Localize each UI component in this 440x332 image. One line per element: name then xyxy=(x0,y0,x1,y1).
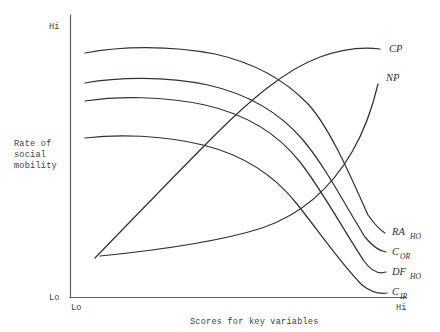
y-axis-title: Rate of social mobility xyxy=(14,139,57,171)
curve-cp xyxy=(95,48,380,258)
curve-c-or xyxy=(85,78,386,252)
curve-label-np: NP xyxy=(385,72,400,83)
curve-label-c-or: C OR xyxy=(392,246,410,261)
curve-label-ra-ho: RA HO xyxy=(391,226,421,241)
line-chart-plot: CP NP RA HO C OR DF HO C IR Hi Lo Lo Hi … xyxy=(0,0,440,332)
curve-label-c-or-sub: OR xyxy=(400,252,410,261)
y-axis-title-line-3: mobility xyxy=(14,161,57,171)
curve-np xyxy=(100,84,378,256)
x-axis-low-label: Lo xyxy=(71,303,82,313)
y-axis-title-line-1: Rate of xyxy=(14,139,52,149)
curve-label-c-ir: C IR xyxy=(392,286,408,301)
curve-c-ir xyxy=(85,136,387,294)
curve-df-ho xyxy=(85,98,386,273)
curve-label-ra-ho-sub: HO xyxy=(409,232,421,241)
y-axis-title-line-2: social xyxy=(14,150,46,160)
y-axis-high-label: Hi xyxy=(49,22,60,32)
curve-ra-ho xyxy=(85,48,385,234)
curve-label-c-ir-sub: IR xyxy=(399,292,408,301)
curve-label-c-ir-main: C xyxy=(392,286,400,297)
chart-container: CP NP RA HO C OR DF HO C IR Hi Lo Lo Hi … xyxy=(0,0,440,332)
curve-label-ra-ho-main: RA xyxy=(391,226,405,237)
x-axis-high-label: Hi xyxy=(396,303,407,313)
curve-label-df-ho: DF HO xyxy=(391,266,421,281)
curve-label-c-or-main: C xyxy=(392,246,400,257)
curve-label-cp: CP xyxy=(389,43,403,54)
curve-label-df-ho-sub: HO xyxy=(409,272,421,281)
y-axis-low-label: Lo xyxy=(49,293,60,303)
curve-label-df-ho-main: DF xyxy=(391,266,407,277)
x-axis-title: Scores for key variables xyxy=(190,317,319,327)
